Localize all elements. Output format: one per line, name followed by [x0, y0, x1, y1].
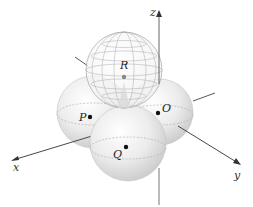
x-axis-label: x	[13, 161, 20, 174]
x-axis	[13, 136, 92, 160]
x-axis-back	[75, 57, 88, 66]
label-p: P	[78, 111, 87, 124]
z-axis-arrow	[156, 10, 162, 17]
y-axis-label: y	[233, 169, 241, 182]
center-p-dot	[88, 115, 92, 119]
y-axis-arrow	[233, 158, 241, 165]
y-axis	[178, 126, 238, 163]
center-o-dot	[156, 111, 160, 115]
label-q: Q	[113, 148, 122, 161]
z-axis-label: z	[149, 6, 156, 19]
sphere-q	[90, 105, 166, 181]
y-axis-back	[193, 93, 215, 101]
label-o: O	[162, 102, 171, 115]
label-r: R	[119, 59, 128, 72]
center-r-dot	[122, 75, 126, 79]
center-q-dot	[124, 145, 128, 149]
sphere-diagram: z x y R P O Q	[0, 0, 253, 207]
